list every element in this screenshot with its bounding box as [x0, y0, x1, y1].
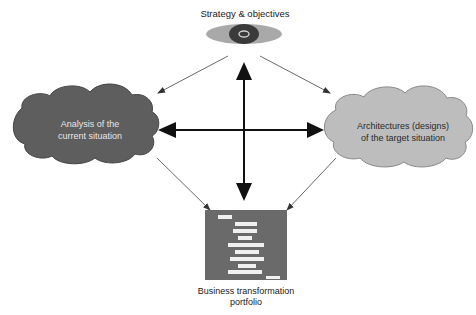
strategy-label: Strategy & objectives [190, 8, 300, 19]
gantt-chart-icon [205, 210, 287, 280]
bold-arrow-horizontal [158, 122, 324, 138]
target-line-2: of the target situation [338, 132, 468, 144]
portfolio-label: Business transformation portfolio [186, 286, 306, 308]
arrow-strategy-to-target [260, 56, 330, 93]
bold-arrow-vertical [236, 62, 252, 201]
current-situation-label: Analysis of the current situation [30, 118, 150, 142]
eye-icon [206, 24, 282, 44]
diagram-canvas [0, 0, 476, 315]
portfolio-line-1: Business transformation [186, 286, 306, 297]
target-line-1: Architectures (designs) [338, 120, 468, 132]
current-line-2: current situation [30, 130, 150, 142]
arrow-current-to-portfolio [157, 158, 210, 210]
target-situation-label: Architectures (designs) of the target si… [338, 120, 468, 144]
current-line-1: Analysis of the [30, 118, 150, 130]
portfolio-line-2: portfolio [186, 297, 306, 308]
arrow-target-to-portfolio [287, 158, 336, 210]
arrow-strategy-to-current [158, 56, 228, 93]
